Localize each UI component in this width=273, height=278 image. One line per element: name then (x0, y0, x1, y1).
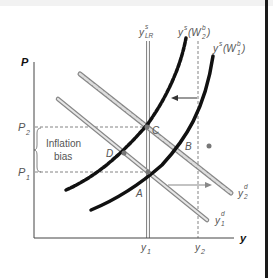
svg-text:y: y (177, 27, 184, 38)
y-axis-label: y (239, 232, 247, 244)
svg-text:P: P (18, 166, 26, 178)
axes (34, 62, 234, 238)
svg-text:y: y (212, 43, 219, 54)
svg-text:2: 2 (25, 129, 30, 136)
y1-label: y 1 (140, 242, 151, 255)
supply-curve-w2 (66, 38, 186, 190)
demand-2-label: y d 2 (237, 183, 248, 200)
svg-text:b: b (237, 40, 241, 47)
svg-text:d: d (244, 183, 248, 190)
svg-text:1: 1 (26, 174, 30, 181)
svg-text:): ) (206, 27, 210, 38)
svg-text:): ) (241, 43, 245, 54)
p2-label: P 2 (18, 121, 30, 136)
arrow-right-icon (205, 182, 212, 188)
point-c-label: C (152, 125, 160, 136)
svg-text:y: y (140, 242, 147, 253)
inflation-bias-line1: Inflation (46, 138, 81, 149)
point-b-marker (207, 144, 212, 149)
arrow-left-icon (171, 95, 178, 101)
point-b-label: B (185, 141, 192, 152)
point-a-label: A (135, 188, 143, 199)
demand-1-label: y d 1 (214, 210, 225, 227)
svg-text:y: y (194, 242, 201, 253)
point-d-label: D (106, 148, 113, 159)
svg-text:2: 2 (201, 33, 206, 40)
svg-text:1: 1 (221, 220, 225, 227)
svg-text:s: s (145, 23, 149, 30)
inflation-bias-brace (34, 128, 41, 172)
svg-text:2: 2 (200, 248, 205, 255)
supply-w1-label: y s (W b 1 ) (212, 40, 245, 56)
ad-as-diagram: P y P 2 P 1 y 1 y 2 Inflation bias C D B… (0, 0, 273, 278)
p1-label: P 1 (18, 166, 30, 181)
shift-right-arrow (168, 182, 212, 188)
svg-text:P: P (18, 121, 26, 133)
point-a-marker (146, 170, 151, 175)
inflation-bias-line2: bias (54, 151, 72, 162)
svg-text:1: 1 (147, 248, 151, 255)
svg-text:LR: LR (145, 32, 154, 39)
supply-w2-label: y s (W b 2 ) (177, 24, 210, 40)
long-run-supply-label: y s LR (138, 23, 154, 39)
point-d-marker (122, 151, 127, 156)
point-c-marker (145, 125, 150, 130)
svg-text:y: y (237, 188, 244, 199)
svg-text:y: y (138, 27, 145, 38)
shift-left-arrow (171, 95, 197, 101)
svg-text:(W: (W (223, 43, 237, 54)
y2-label: y 2 (194, 242, 205, 255)
svg-text:1: 1 (237, 49, 241, 56)
svg-text:2: 2 (243, 193, 248, 200)
p-axis-label: P (21, 56, 29, 68)
svg-text:d: d (221, 210, 225, 217)
svg-text:y: y (214, 215, 221, 226)
svg-text:(W: (W (188, 27, 202, 38)
svg-text:b: b (202, 24, 206, 31)
